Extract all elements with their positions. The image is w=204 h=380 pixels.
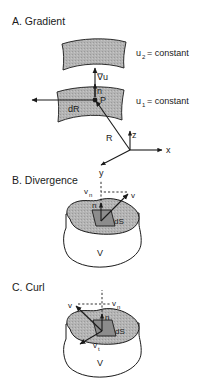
- curl-volume-label: V: [97, 358, 103, 368]
- divergence-vn-symbol: v: [84, 187, 88, 196]
- divergence-normal-label: n: [92, 201, 96, 210]
- panel-divergence-heading: B. Divergence: [12, 174, 78, 186]
- dR-label: dR: [68, 104, 80, 114]
- curl-vn-subscript: n: [117, 304, 120, 310]
- divergence-v-label: v: [131, 191, 135, 200]
- curl-dS-label: dS: [115, 327, 125, 336]
- curl-v-label: v: [68, 301, 72, 310]
- curl-dS-patch: [93, 320, 116, 336]
- upper-surface-symbol: u: [136, 48, 141, 58]
- curl-vn-symbol: v: [112, 299, 116, 308]
- curl-normal-label: n: [105, 313, 109, 322]
- divergence-vn-subscript: n: [89, 192, 92, 198]
- gradient-vector-label: ∇u: [96, 72, 108, 82]
- upper-surface-equation: = constant: [147, 48, 189, 58]
- panel-gradient-heading: A. Gradient: [12, 15, 65, 27]
- vector-calculus-figure: A. Gradient ∇u n dR P R: [0, 0, 204, 380]
- divergence-dS-label: dS: [114, 217, 124, 226]
- axis-y-label: y: [99, 168, 104, 178]
- axis-x-label: x: [166, 145, 171, 155]
- lower-surface-equation: = constant: [147, 96, 189, 106]
- position-vector-R-label: R: [106, 133, 113, 143]
- point-P-label: P: [100, 95, 106, 105]
- axis-z-label: z: [132, 130, 137, 140]
- panel-curl-heading: C. Curl: [12, 281, 45, 293]
- lower-surface-symbol: u: [136, 96, 141, 106]
- divergence-volume-label: V: [97, 248, 103, 258]
- curl-vt-symbol: v: [93, 341, 97, 350]
